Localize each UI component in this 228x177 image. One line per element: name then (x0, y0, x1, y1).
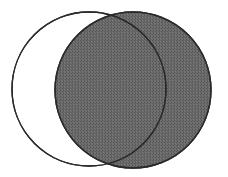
venn-diagram-figure: Two overlapping circles Venn diagram Two… (0, 0, 228, 177)
venn-diagram-canvas (0, 0, 228, 177)
venn-right-circle-shaded-set (55, 12, 211, 168)
